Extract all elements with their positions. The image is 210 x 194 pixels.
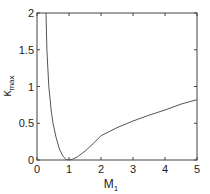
y-tick-label: 0.5 [19,117,34,129]
kappa-curve [46,13,197,160]
y-axis-ticks: 00.511.52 [19,7,197,166]
y-tick-label: 1 [28,81,34,93]
x-tick-label: 5 [194,163,200,175]
x-tick-label: 2 [98,163,104,175]
x-tick-label: 3 [130,163,136,175]
x-axis-ticks: 012345 [34,13,200,175]
x-tick-label: 4 [162,163,168,175]
x-axis-label: M1 [104,177,119,193]
x-tick-label: 1 [66,163,72,175]
plot-frame [37,13,197,160]
y-tick-label: 0 [28,154,34,166]
plot-area [37,13,197,160]
y-axis-label: κmax [0,75,16,96]
x-tick-label: 0 [34,163,40,175]
y-tick-label: 1.5 [19,44,34,56]
chart: 012345 00.511.52 M1 κmax [0,0,210,194]
y-tick-label: 2 [28,7,34,19]
